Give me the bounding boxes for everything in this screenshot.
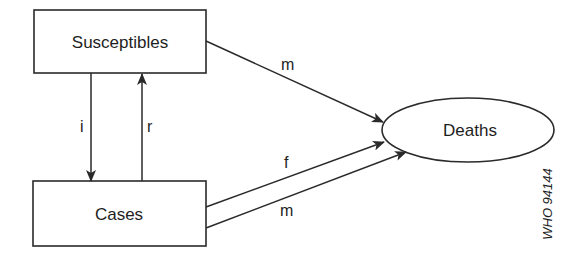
cases-label: Cases <box>95 205 143 224</box>
edge-infection: i <box>80 73 91 181</box>
case-fatality-label: f <box>284 154 289 171</box>
node-deaths: Deaths <box>382 98 554 162</box>
recovery-label: r <box>147 118 153 135</box>
deaths-label: Deaths <box>443 121 497 140</box>
susceptible-mortality-arrow <box>206 41 383 122</box>
susceptibles-label: Susceptibles <box>72 33 168 52</box>
susceptible-mortality-label: m <box>281 56 294 73</box>
edge-case-fatality: f <box>206 142 384 207</box>
case-mortality-arrow <box>206 152 406 228</box>
edge-case-mortality: m <box>206 152 406 228</box>
reference-code: WHO 94144 <box>540 168 555 240</box>
case-fatality-arrow <box>206 142 384 207</box>
node-cases: Cases <box>33 181 206 246</box>
edge-recovery: r <box>142 74 153 181</box>
case-mortality-label: m <box>280 202 293 219</box>
node-susceptibles: Susceptibles <box>34 10 206 73</box>
infection-label: i <box>80 118 84 135</box>
edge-susceptible-mortality: m <box>206 41 383 122</box>
flow-diagram: Susceptibles Cases Deaths i r m f m WHO … <box>0 0 582 268</box>
